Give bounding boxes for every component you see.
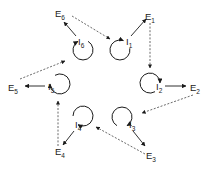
- external-node-e2: E2: [190, 82, 200, 95]
- external-node-e3: E3: [146, 150, 156, 163]
- dashed-edge-e2-i3: [142, 95, 193, 113]
- solid-edge-i3-e3: [133, 131, 145, 146]
- external-node-e1: E1: [145, 11, 155, 24]
- solid-edge-i6-e6: [64, 22, 76, 36]
- internal-node-i5: I5: [48, 81, 55, 94]
- external-node-e4: E4: [55, 146, 65, 159]
- dashed-edge-e3-i4: [96, 127, 145, 154]
- self-loops: [50, 40, 160, 126]
- internal-node-i2: I2: [156, 81, 163, 94]
- external-node-e6: E6: [55, 8, 65, 21]
- internal-node-i1: I1: [126, 36, 133, 49]
- dashed-edges: [20, 16, 193, 154]
- node-labels: I1I2I3I4I5I6E1E2E3E4E5E6: [8, 8, 200, 163]
- dashed-edge-e5-i6: [20, 61, 65, 79]
- internal-node-i3: I3: [129, 119, 136, 132]
- internal-node-i4: I4: [75, 119, 82, 132]
- solid-edge-i1-e1: [131, 19, 146, 36]
- cycle-diagram: I1I2I3I4I5I6E1E2E3E4E5E6: [0, 0, 208, 175]
- external-node-e5: E5: [8, 82, 18, 95]
- solid-edge-i4-e4: [63, 131, 74, 145]
- internal-node-i6: I6: [78, 36, 85, 49]
